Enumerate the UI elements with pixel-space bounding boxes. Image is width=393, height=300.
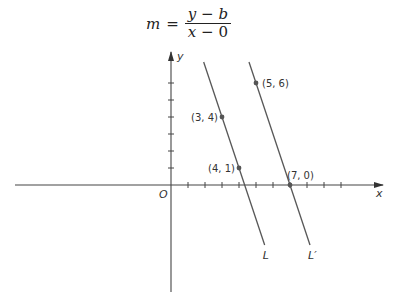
y-axis-label: y [176,50,184,63]
point-label: (3, 4) [191,112,218,123]
point-label: (7, 0) [287,170,314,181]
point-label: (5, 6) [262,78,289,89]
origin-label: O [159,188,168,201]
point-marker [288,183,293,188]
line-L-prime [249,62,310,245]
point-marker [254,81,259,86]
points: (3, 4)(4, 1)(5, 6)(7, 0) [191,78,314,188]
line-label-L: L [263,249,269,262]
line-L [204,62,265,245]
axes: x y O [15,50,383,292]
line-label-L-prime: L′ [308,249,317,262]
x-axis-label: x [375,187,383,200]
point-marker [220,115,225,120]
coordinate-plot: x y O LL′ (3, 4)(4, 1)(5, 6)(7, 0) [0,0,393,300]
point-label: (4, 1) [208,163,235,174]
point-marker [237,166,242,171]
